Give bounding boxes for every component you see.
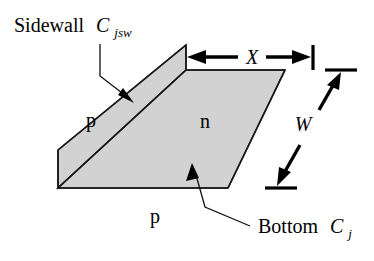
bottom-callout-subscript: j: [346, 226, 352, 241]
region-label-p-bottom: p: [150, 205, 160, 228]
x-dimension-label: X: [245, 46, 259, 68]
sidewall-callout-text: Sidewall: [14, 14, 84, 36]
region-label-n: n: [200, 110, 210, 132]
w-dimension-arrowhead-lower: [277, 167, 291, 186]
figure-canvas: n p p X W Sidewall C jsw Bottom: [0, 0, 374, 261]
bottom-callout-label: Bottom C j: [258, 215, 352, 241]
sidewall-callout-label: Sidewall C jsw: [14, 14, 132, 40]
sidewall-leader-line: [100, 44, 126, 96]
bottom-callout-text: Bottom: [258, 215, 318, 237]
region-label-p-left: p: [86, 109, 96, 132]
x-dimension-arrowhead-right: [292, 50, 311, 64]
bottom-callout-symbol: C: [330, 215, 344, 237]
pn-junction-diagram: n p p X W Sidewall C jsw Bottom: [0, 0, 374, 261]
w-dimension-arrowhead-upper: [327, 72, 341, 90]
x-dimension-arrowhead-left: [187, 50, 206, 64]
sidewall-callout-symbol: C: [96, 14, 110, 36]
sidewall-callout-subscript: jsw: [112, 25, 132, 40]
w-dimension-label: W: [295, 113, 314, 135]
